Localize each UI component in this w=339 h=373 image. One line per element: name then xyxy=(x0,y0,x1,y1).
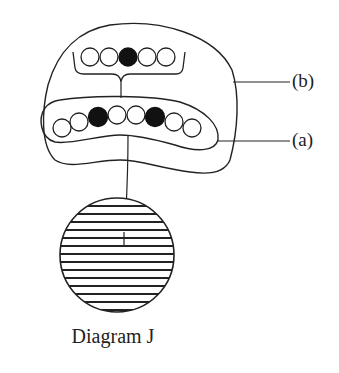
label-b: (b) xyxy=(292,70,314,92)
lower-bead-row xyxy=(53,106,201,137)
bead-empty xyxy=(70,113,88,131)
bead-empty xyxy=(108,106,126,124)
label-a: (a) xyxy=(292,129,313,151)
bead-filled xyxy=(119,48,137,66)
bead-empty xyxy=(157,48,175,66)
bead-empty xyxy=(53,119,71,137)
striped-sphere xyxy=(55,198,180,312)
bead-empty xyxy=(100,48,118,66)
diagram-j xyxy=(0,0,339,373)
bead-empty xyxy=(138,48,156,66)
bead-filled xyxy=(89,108,108,127)
upper-bead-row xyxy=(81,48,175,66)
bead-empty xyxy=(183,119,201,137)
bead-empty xyxy=(81,48,99,66)
bead-empty xyxy=(165,113,183,131)
bead-empty xyxy=(127,106,145,124)
bead-filled xyxy=(146,108,165,127)
diagram-caption: Diagram J xyxy=(63,325,163,348)
